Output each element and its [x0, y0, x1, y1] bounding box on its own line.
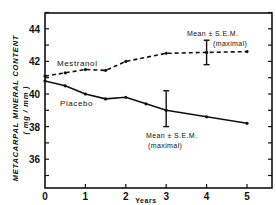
- sem-annotation-placebo-sub: (maximal): [148, 142, 182, 150]
- mestranol-point: [104, 69, 107, 72]
- x-tick-label: 0: [42, 191, 48, 202]
- x-tick-label: 5: [244, 191, 250, 202]
- y-tick-label: 36: [29, 154, 41, 165]
- mestranol-point: [43, 74, 46, 77]
- placebo-point: [245, 122, 248, 125]
- mestranol-point: [84, 68, 87, 71]
- mestranol-point: [64, 71, 67, 74]
- mestranol-point: [245, 50, 248, 53]
- sem-annotation-mestranol-sub: (maximal): [213, 40, 247, 48]
- y-tick-label: 42: [29, 56, 41, 67]
- y-axis-title: METACARPAL MINERAL CONTENT: [11, 34, 20, 181]
- placebo-point: [104, 97, 107, 100]
- x-tick-label: 3: [163, 191, 169, 202]
- placebo-point: [144, 102, 147, 105]
- placebo-point: [205, 115, 208, 118]
- placebo-point: [64, 84, 67, 87]
- mestranol-point: [165, 52, 168, 55]
- y-tick-label: 40: [29, 89, 41, 100]
- x-tick-label: 2: [123, 191, 129, 202]
- sem-annotation-mestranol: Mean ± S.E.M.: [187, 30, 238, 37]
- x-tick-label: 1: [83, 191, 89, 202]
- sem-annotation-placebo: Mean ± S.E.M.: [146, 132, 197, 139]
- x-tick-label: 4: [204, 191, 210, 202]
- placebo-point: [43, 79, 46, 82]
- x-axis-title: Years: [135, 197, 157, 204]
- placebo-label: Placebo: [60, 99, 93, 108]
- y-axis-units: ( mg / mm ): [21, 86, 30, 135]
- mestranol-point: [124, 60, 127, 63]
- mestranol-label: Mestranol: [57, 59, 98, 68]
- y-tick-label: 44: [29, 24, 41, 35]
- chart: 3638404244 012345 METACARPAL MINERAL CON…: [0, 0, 276, 205]
- placebo-point: [84, 92, 87, 95]
- y-tick-label: 38: [29, 122, 41, 133]
- placebo-point: [124, 96, 127, 99]
